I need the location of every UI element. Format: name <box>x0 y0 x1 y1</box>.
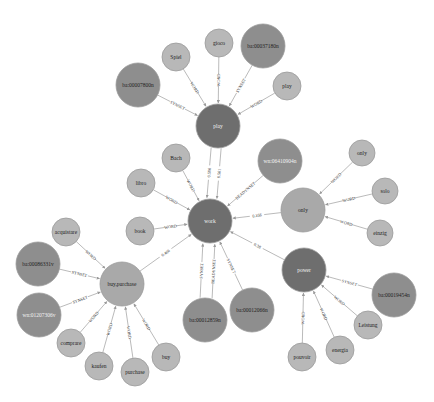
edge-label: BEADYNSET <box>210 258 216 284</box>
node-only_word[interactable]: only <box>349 140 375 166</box>
node-label: wn:01207306v <box>23 312 56 318</box>
edge-label: SYNSET <box>199 262 205 278</box>
edge-label: BEADYNSET <box>234 180 256 200</box>
node-einzig[interactable]: einzig <box>367 220 393 246</box>
node-power[interactable]: power <box>282 248 326 292</box>
node-wn06410904n[interactable]: wn:06410904n <box>258 139 302 183</box>
node-label: ba:00007800n <box>122 82 154 88</box>
node-acquistare[interactable]: acquistare <box>52 218 80 246</box>
node-kaufen[interactable]: kaufen <box>85 352 113 380</box>
node-ba00037180n[interactable]: ba:00037180n <box>241 24 285 68</box>
node-energia[interactable]: energia <box>326 336 354 364</box>
edge-only-work: 0.356 <box>233 212 281 219</box>
edge-label: SYNSET <box>71 270 88 279</box>
node-label: ba:00012859n <box>189 317 221 323</box>
node-leistung[interactable]: Leistung <box>354 311 382 339</box>
edge-label: WORD <box>339 219 353 227</box>
node-ba00012066n[interactable]: ba:00012066n <box>230 288 274 332</box>
node-book[interactable]: book <box>126 217 154 245</box>
edge-solo-only: WORD <box>325 194 372 205</box>
node-label: solo <box>380 188 389 194</box>
node-solo[interactable]: solo <box>372 178 398 204</box>
edge-wn06410904n-work: BEADYNSET <box>227 175 263 206</box>
edge-pouvoir-power: WORD <box>300 293 305 343</box>
node-pouvoir[interactable]: pouvoir <box>288 343 316 371</box>
edge-label: WORD <box>330 172 343 184</box>
node-purchase[interactable]: purchase <box>121 358 149 386</box>
node-ba00007800n[interactable]: ba:00007800n <box>116 63 160 107</box>
node-play_word[interactable]: play <box>273 72 301 100</box>
node-only[interactable]: only <box>281 188 325 232</box>
node-label: purchase <box>125 369 145 375</box>
node-buy_purchase[interactable]: buy,purchase <box>100 262 144 306</box>
node-label: only <box>357 150 367 156</box>
edge-purchase-buy_purchase: WORD <box>125 307 133 358</box>
edge-spiel-play: WORD <box>183 69 206 106</box>
edge-label: SYNSET <box>235 77 247 94</box>
node-label: buy <box>162 354 171 360</box>
node-label: ba:00037180n <box>247 43 279 49</box>
node-play[interactable]: play <box>196 104 240 148</box>
node-label: play <box>213 123 223 129</box>
edge-label: 0.561 <box>216 169 222 179</box>
node-label: kaufen <box>92 363 107 369</box>
node-label: Bach <box>170 155 182 161</box>
node-label: ba:00086331v <box>22 261 54 267</box>
edge-gioco-play: WORD <box>216 57 221 103</box>
edge-label: WORD <box>300 312 305 325</box>
node-label: Leistung <box>358 322 377 328</box>
edge-einzig-only: WORD <box>325 217 368 230</box>
edge-label: WORD <box>87 310 99 323</box>
edge-label: 0.506 <box>206 168 212 178</box>
edge-acquistare-buy_purchase: WORD <box>76 242 105 269</box>
edge-play-work: 0.506 <box>206 148 212 198</box>
node-ba00012859n[interactable]: ba:00012859n <box>183 298 227 342</box>
node-spiel[interactable]: Spiel <box>162 43 190 71</box>
edge-comprare-buy_purchase: WORD <box>80 301 107 332</box>
node-bach[interactable]: Bach <box>162 144 190 172</box>
edge-kaufen-buy_purchase: WORD <box>103 306 116 352</box>
node-comprare[interactable]: comprare <box>57 329 85 357</box>
node-wn01207306v[interactable]: wn:01207306v <box>17 293 61 337</box>
edge-bach-work: WORD <box>183 170 199 200</box>
node-libro[interactable]: libro <box>127 169 155 197</box>
edge-label: WORD <box>319 307 329 321</box>
edge-ba00012859n-work: BEADYNSET <box>210 244 216 298</box>
edge-label: SYNSET <box>341 278 358 287</box>
edge-label: WORD <box>333 294 346 306</box>
edge-power-work: 0.38 <box>230 232 284 260</box>
node-ba00019454n[interactable]: ba:00019454n <box>372 273 416 317</box>
knowledge-graph: SYNSETWORDWORDSYNSETWORD0.5610.506WORDWO… <box>0 0 434 402</box>
node-label: Spiel <box>170 54 182 60</box>
edge-wn01207306v-buy_purchase: SYNSET <box>60 292 101 307</box>
edge-play_word-play: WORD <box>238 93 275 114</box>
node-buy[interactable]: buy <box>152 343 180 371</box>
edge-play-work: 0.561 <box>216 148 222 198</box>
node-label: play <box>282 83 292 89</box>
node-label: libro <box>136 180 147 186</box>
edge-label: WORD <box>164 223 177 230</box>
edge-label: WORD <box>189 81 200 95</box>
edge-ba00007800n-play: SYNSET <box>158 95 198 115</box>
edge-ba00037180n-play: SYNSET <box>229 65 252 106</box>
node-label: einzig <box>373 230 387 236</box>
node-ba00086331v[interactable]: ba:00086331v <box>16 242 60 286</box>
node-work[interactable]: work <box>188 199 232 243</box>
node-label: only <box>298 207 308 213</box>
edge-ba00019454n-power: SYNSET <box>326 276 373 289</box>
edge-label: WORD <box>141 318 152 332</box>
node-label: ba:00019454n <box>378 292 410 298</box>
node-label: book <box>135 228 146 234</box>
node-label: pouvoir <box>293 354 310 360</box>
edge-buy-buy_purchase: WORD <box>134 304 159 345</box>
node-label: wn:06410904n <box>264 158 297 164</box>
node-label: acquistare <box>55 229 78 235</box>
edge-label: WORD <box>342 195 356 203</box>
edge-ba00012859n-work: SYNSET <box>198 244 204 298</box>
node-label: gioco <box>213 40 225 46</box>
edge-label: WORD <box>186 179 196 193</box>
edge-ba00086331v-buy_purchase: SYNSET <box>59 269 99 279</box>
edge-label: WORD <box>250 98 264 109</box>
node-gioco[interactable]: gioco <box>205 29 233 57</box>
edge-label: SYNSET <box>72 294 89 304</box>
